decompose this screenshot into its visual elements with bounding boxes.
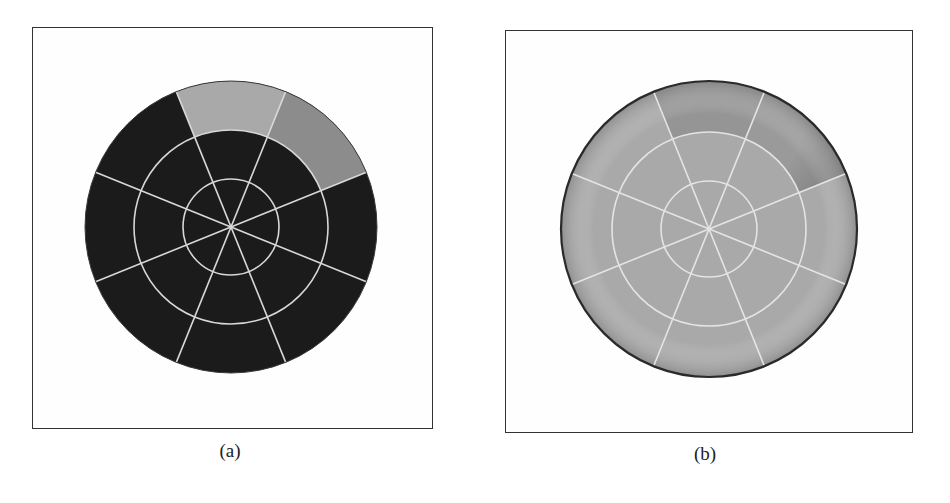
panel-b: (b) xyxy=(0,0,950,503)
bullseye-plot-b xyxy=(0,0,950,503)
caption-b: (b) xyxy=(675,443,735,465)
